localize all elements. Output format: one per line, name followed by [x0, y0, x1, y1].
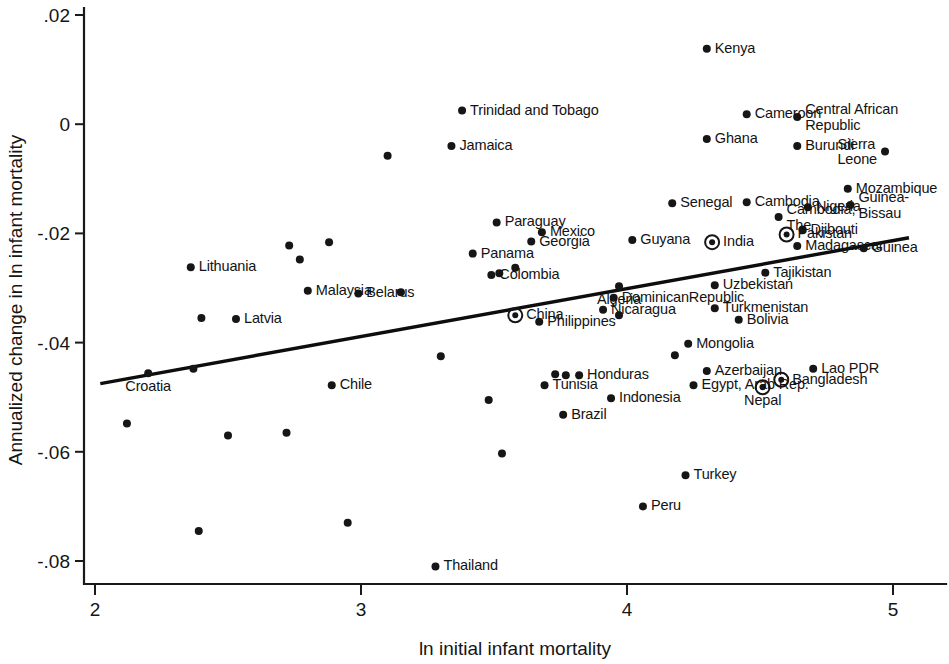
x-tick-label: 4 — [622, 599, 633, 620]
data-point — [711, 281, 719, 289]
point-label: Senegal — [680, 196, 732, 212]
data-point — [703, 367, 711, 375]
point-label: Georgia — [539, 234, 590, 250]
y-tick-label: -.02 — [37, 223, 70, 244]
point-label: Mongolia — [696, 336, 754, 352]
point-label: Trinidad and Tobago — [470, 103, 599, 119]
data-point — [844, 185, 852, 193]
data-point — [285, 241, 293, 249]
data-point — [485, 396, 493, 404]
point-label: Lithuania — [199, 260, 257, 276]
data-point — [296, 256, 304, 264]
data-point — [487, 271, 495, 279]
data-point — [705, 235, 719, 249]
data-point — [684, 340, 692, 348]
point-label: Turkey — [694, 468, 737, 484]
point-label: Jamaica — [459, 138, 512, 154]
data-point — [384, 152, 392, 160]
data-point — [498, 449, 506, 457]
data-point — [447, 142, 455, 150]
point-label: Indonesia — [619, 391, 681, 407]
data-point — [761, 269, 769, 277]
data-point — [671, 351, 679, 359]
x-axis-title: ln initial infant mortality — [419, 638, 612, 659]
data-point — [690, 381, 698, 389]
point-label: Bangladesh — [792, 372, 867, 388]
data-point — [469, 250, 477, 258]
data-point — [703, 135, 711, 143]
data-point — [437, 352, 445, 360]
point-label: Chile — [340, 377, 372, 393]
data-point — [344, 519, 352, 527]
y-tick-label: -.06 — [37, 442, 70, 463]
point-label: Kenya — [715, 41, 755, 57]
data-point — [881, 148, 889, 156]
x-tick-label: 5 — [888, 599, 899, 620]
point-label: Sierra Leone — [837, 136, 877, 167]
point-label: Panama — [481, 246, 534, 262]
point-label: Philippines — [547, 314, 615, 330]
data-point — [735, 316, 743, 324]
data-point — [304, 287, 312, 295]
data-point — [628, 236, 636, 244]
data-point — [607, 394, 615, 402]
point-label: Guyana — [640, 232, 690, 248]
data-point — [431, 562, 439, 570]
y-tick-label: 0 — [59, 114, 70, 135]
data-point — [144, 369, 152, 377]
point-label: Latvia — [244, 311, 282, 327]
data-point — [232, 315, 240, 323]
data-point — [187, 263, 195, 271]
point-label: Bolivia — [747, 312, 789, 328]
point-label: Ghana — [715, 131, 758, 147]
axes — [75, 8, 946, 595]
data-point — [793, 242, 801, 250]
data-point — [197, 314, 205, 322]
data-point — [541, 381, 549, 389]
data-point — [668, 199, 676, 207]
data-point — [328, 381, 336, 389]
point-label: Brazil — [571, 407, 606, 423]
point-label: Nepal — [744, 393, 781, 409]
data-point — [775, 213, 783, 221]
data-point — [283, 429, 291, 437]
point-label: Belarus — [366, 286, 414, 302]
data-point — [458, 107, 466, 115]
y-tick-label: .02 — [44, 5, 70, 26]
data-point — [189, 365, 197, 373]
data-point — [793, 142, 801, 150]
data-point — [325, 238, 333, 246]
data-point — [123, 419, 131, 427]
y-tick-label: -.04 — [37, 333, 70, 354]
data-point — [639, 502, 647, 510]
scatter-plot-figure: .020-.02-.04-.06-.082345 ln initial infa… — [0, 0, 949, 664]
point-label: Guinea — [872, 240, 918, 256]
point-label: Croatia — [125, 379, 171, 395]
data-point — [703, 45, 711, 53]
x-tick-label: 3 — [356, 599, 367, 620]
data-point — [682, 471, 690, 479]
data-point — [743, 110, 751, 118]
data-point — [493, 218, 501, 226]
data-point — [743, 198, 751, 206]
point-label: India — [723, 234, 754, 250]
point-label: Thailand — [443, 559, 497, 575]
y-axis-title: Annualized change in ln infant mortality — [5, 134, 26, 465]
y-tick-label: -.08 — [37, 551, 70, 572]
data-point — [195, 527, 203, 535]
point-label: Peru — [651, 499, 681, 515]
point-label: Guinea- Bissau — [858, 190, 909, 221]
data-point — [559, 411, 567, 419]
point-label: Colombia — [499, 267, 559, 283]
point-label: Central African Republic — [805, 102, 898, 133]
data-point — [224, 431, 232, 439]
point-label: Nicaragua — [611, 302, 676, 318]
x-tick-label: 2 — [90, 599, 101, 620]
point-label: Malaysia — [316, 283, 372, 299]
point-label: Tunisia — [553, 377, 598, 393]
